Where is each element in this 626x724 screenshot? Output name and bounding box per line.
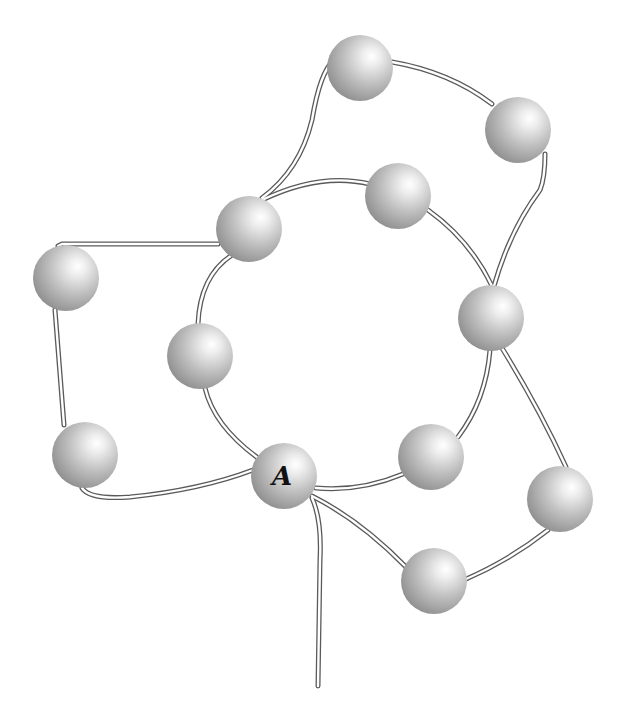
bond-n9-n7	[205, 388, 258, 458]
bond-n7-n4	[198, 255, 232, 324]
sphere-n7	[167, 323, 233, 389]
label-layer: A	[269, 461, 292, 491]
bond-n11-n12	[464, 530, 548, 580]
sphere-n12	[401, 548, 467, 614]
bond-n1-n2	[392, 62, 492, 104]
node-label: A	[269, 461, 292, 491]
sphere-n1	[327, 35, 393, 101]
bond-layer-inner	[55, 60, 566, 686]
sphere-n11	[527, 466, 593, 532]
bond-layer-outer	[55, 60, 566, 686]
bond-core-n1-n2	[392, 62, 492, 104]
knot-diagram: A	[0, 0, 626, 724]
sphere-n8	[52, 422, 118, 488]
sphere-n2	[485, 97, 551, 163]
bond-core-n9-n7	[205, 388, 258, 458]
sphere-n10	[398, 424, 464, 490]
sphere-n5	[33, 245, 99, 311]
bond-n4-n1	[262, 60, 334, 198]
bond-core-n3-n6	[428, 210, 492, 286]
sphere-n4	[216, 196, 282, 262]
bond-n6-n10	[458, 350, 490, 437]
bond-n3-n6	[428, 210, 492, 286]
sphere-n3	[365, 163, 431, 229]
bond-core-n6-n10	[458, 350, 490, 437]
sphere-n6	[458, 285, 524, 351]
bond-n12-n9	[312, 496, 406, 567]
bond-core-n5-n8	[55, 310, 64, 425]
